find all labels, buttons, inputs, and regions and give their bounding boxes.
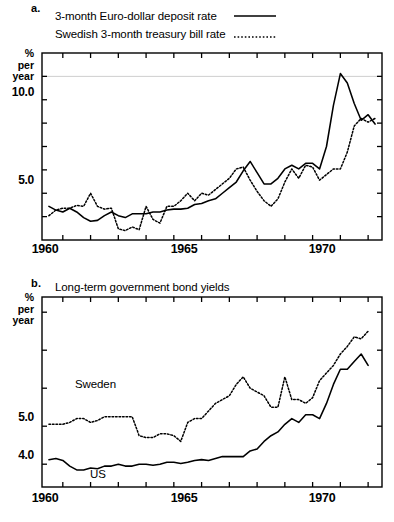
series-sweden [49,331,368,441]
panel-b-plot [0,0,394,522]
